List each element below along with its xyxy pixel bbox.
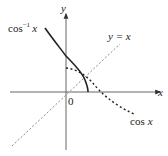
identity-label: y = x [107,30,131,42]
arccos-label-sup: −1 [23,21,31,29]
arccos-label: cos−1x [8,21,37,34]
y-axis-label: y [60,2,66,14]
cos-curve [66,68,134,114]
cos-label-var: x [147,115,153,127]
arccos-label-var: x [31,22,37,34]
x-axis-label: x [157,86,163,98]
inverse-cosine-diagram: y x 0 cos−1x y = x cosx [0,0,168,156]
origin-label: 0 [68,95,74,107]
arccos-label-base: cos [8,22,23,34]
cos-label: cosx [130,115,153,127]
cos-label-base: cos [130,115,145,127]
